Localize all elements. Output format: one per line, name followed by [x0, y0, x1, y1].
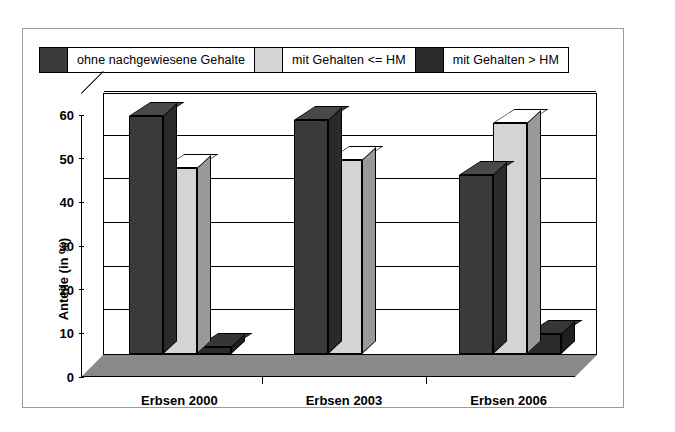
x-tick-label-1: Erbsen 2000 — [141, 393, 218, 408]
y-tick-label-30: 30 — [60, 239, 81, 254]
bar-face — [459, 175, 493, 354]
y-tick-label-60: 60 — [60, 108, 81, 123]
legend-item-0: ohne nachgewiesene Gehalte — [40, 48, 255, 72]
plot-wrap: Anteile (in %) 0102030405060 Erbsen 2000… — [81, 93, 611, 383]
bar-face — [294, 120, 328, 354]
chart-legend: ohne nachgewiesene Gehalte mit Gehalten … — [39, 47, 569, 73]
chart-figure: ohne nachgewiesene Gehalte mit Gehalten … — [22, 28, 624, 408]
bar-side — [197, 155, 211, 354]
y-tick-label-50: 50 — [60, 151, 81, 166]
legend-swatch-ohne-nachgewiesene-gehalte — [40, 48, 68, 72]
y-tick-mark-40 — [79, 202, 84, 203]
bar-side — [328, 107, 342, 354]
gridline-60 — [104, 91, 596, 92]
y-tick-label-20: 20 — [60, 282, 81, 297]
bar-2-1 — [294, 120, 328, 354]
bar-face — [129, 116, 163, 354]
y-tick-label-40: 40 — [60, 195, 81, 210]
y-tick-mark-20 — [79, 289, 84, 290]
plot-area — [103, 93, 597, 355]
plot-floor-fill — [81, 355, 597, 377]
plot-floor — [81, 355, 597, 377]
x-tick-mark-1 — [262, 377, 263, 384]
y-tick-mark-10 — [79, 333, 84, 334]
bar-side — [493, 162, 507, 354]
plot-left-wall — [81, 93, 103, 355]
y-tick-label-0: 0 — [67, 370, 81, 385]
x-tick-label-3: Erbsen 2006 — [470, 393, 547, 408]
legend-item-2: mit Gehalten > HM — [416, 48, 568, 72]
x-tick-label-2: Erbsen 2003 — [306, 393, 383, 408]
legend-item-1: mit Gehalten <= HM — [255, 48, 416, 72]
y-tick-mark-30 — [79, 246, 84, 247]
x-axis-labels: Erbsen 2000Erbsen 2003Erbsen 2006 — [81, 385, 611, 405]
bar-side — [362, 147, 376, 354]
bar-3-1 — [459, 175, 493, 354]
plot-floor-edge — [81, 376, 575, 377]
legend-label-2: mit Gehalten > HM — [444, 48, 568, 72]
y-tick-mark-60 — [79, 115, 84, 116]
bar-side — [163, 103, 177, 354]
y-tick-label-10: 10 — [60, 326, 81, 341]
legend-swatch-mit-gehalten-groesser-hm — [416, 48, 444, 72]
bar-group-2 — [294, 120, 396, 354]
legend-label-1: mit Gehalten <= HM — [283, 48, 416, 72]
bar-side — [527, 110, 541, 354]
y-tick-mark-50 — [79, 158, 84, 159]
legend-swatch-mit-gehalten-kleiner-gleich-hm — [255, 48, 283, 72]
bar-group-3 — [459, 123, 561, 354]
bar-1-1 — [129, 116, 163, 354]
legend-label-0: ohne nachgewiesene Gehalte — [68, 48, 255, 72]
x-tick-mark-2 — [426, 377, 427, 384]
bar-group-1 — [129, 116, 231, 354]
